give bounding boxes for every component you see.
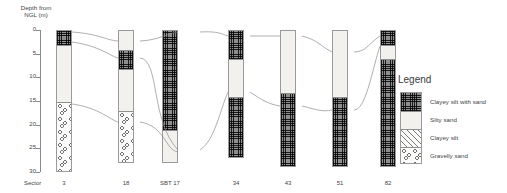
- depth-tick-label: 10: [24, 73, 36, 79]
- lithology-layer-gravelly-sand: [57, 102, 71, 172]
- legend-swatch-clayey-silt: [401, 129, 421, 147]
- borehole-log: [380, 30, 396, 167]
- lithology-layer-clayey-silt-with-sand: [119, 50, 133, 69]
- depth-tick-label: 5: [24, 50, 36, 56]
- depth-axis-line: [40, 30, 41, 172]
- legend-swatch-silty-sand: [401, 111, 421, 129]
- borehole-cross-section-figure: Depth from NGL (m) 051015202530 318SBT 1…: [0, 0, 507, 193]
- legend-label-gravelly-sand: Gravelly sand: [430, 152, 468, 159]
- depth-tick: [36, 77, 40, 78]
- legend-label-silty-sand: Silty sand: [430, 116, 457, 123]
- depth-tick-label: 25: [24, 144, 36, 150]
- legend-pattern-column: [400, 92, 422, 164]
- sector-label: Sector: [24, 180, 41, 186]
- depth-tick-label: 30: [24, 168, 36, 174]
- borehole-log: [280, 30, 296, 167]
- legend-label-clayey-silt: Clayey silt: [430, 134, 458, 141]
- lithology-layer-silty-sand: [163, 130, 177, 162]
- borehole-label: SBT 17: [148, 180, 192, 186]
- legend-swatch-clayey-silt-with-sand: [401, 93, 421, 111]
- borehole-log: [56, 30, 72, 172]
- lithology-layer-silty-sand: [333, 31, 347, 97]
- lithology-layer-clayey-silt-with-sand: [281, 93, 295, 168]
- lithology-layer-silty-sand: [57, 45, 71, 102]
- correlation-lines: [0, 0, 507, 193]
- legend-label-clayey-silt-with-sand: Clayey silt with sand: [430, 98, 486, 105]
- depth-tick: [36, 172, 40, 173]
- depth-tick: [36, 148, 40, 149]
- borehole-label: 34: [214, 180, 258, 186]
- borehole-log: [162, 30, 178, 163]
- depth-tick: [36, 125, 40, 126]
- lithology-layer-clayey-silt-with-sand: [229, 97, 243, 158]
- depth-tick-label: 15: [24, 97, 36, 103]
- lithology-layer-silty-sand: [281, 31, 295, 93]
- borehole-log: [332, 30, 348, 167]
- borehole-label: 51: [318, 180, 362, 186]
- lithology-layer-clayey-silt-with-sand: [57, 31, 71, 45]
- depth-axis-title: Depth from NGL (m): [6, 4, 66, 19]
- lithology-layer-clayey-silt-with-sand: [333, 97, 347, 167]
- borehole-label: 18: [104, 180, 148, 186]
- borehole-label: 82: [366, 180, 410, 186]
- borehole-log: [228, 30, 244, 158]
- legend-title: Legend: [398, 74, 431, 85]
- depth-tick: [36, 54, 40, 55]
- depth-tick: [36, 101, 40, 102]
- depth-tick: [36, 30, 40, 31]
- lithology-layer-clayey-silt-with-sand: [229, 31, 243, 59]
- legend-swatch-gravelly-sand: [401, 147, 421, 164]
- lithology-layer-silty-sand: [119, 31, 133, 50]
- lithology-layer-gravelly-sand: [119, 111, 133, 162]
- lithology-layer-clayey-silt-with-sand: [163, 31, 177, 130]
- borehole-log: [118, 30, 134, 163]
- lithology-layer-silty-sand: [229, 59, 243, 97]
- borehole-label: 3: [42, 180, 86, 186]
- lithology-layer-silty-sand: [119, 69, 133, 112]
- lithology-layer-silty-sand: [381, 45, 395, 59]
- lithology-layer-clayey-silt-with-sand: [381, 31, 395, 45]
- borehole-label: 43: [266, 180, 310, 186]
- depth-tick-label: 20: [24, 121, 36, 127]
- lithology-layer-clayey-silt-with-sand: [381, 59, 395, 167]
- depth-tick-label: 0: [24, 26, 36, 32]
